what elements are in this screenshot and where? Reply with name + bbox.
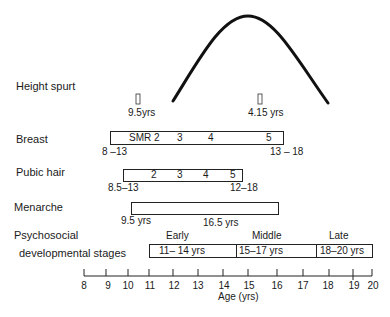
age-axis (84, 269, 372, 280)
tick-label-14: 14 (218, 280, 229, 291)
psychosocial-middle-range: 15–17 yrs (239, 245, 283, 256)
psychosocial-stage-early-name: Early (166, 230, 189, 241)
breast-label: Breast (16, 133, 48, 145)
breast-stage-bar: SMR 2 3 4 5 (110, 131, 284, 145)
tick-label-11: 11 (145, 280, 155, 291)
pubic-hair-end-range: 12–18 (230, 182, 258, 193)
height-spurt-curve (173, 16, 328, 103)
tick-label-15: 15 (243, 280, 254, 291)
menarche-label: Menarche (14, 201, 63, 213)
tick-label-18: 18 (322, 280, 333, 291)
breast-end-range: 13 – 18 (270, 146, 303, 157)
tick-label-10: 10 (122, 280, 133, 291)
menarche-bar (131, 202, 279, 215)
tick-label-19: 19 (348, 280, 359, 291)
pubic-hair-stage-5: 5 (230, 169, 236, 180)
breast-stage-2: SMR 2 (129, 132, 160, 143)
psychosocial-stage-late-name: Late (329, 230, 348, 241)
pubic-hair-stage-bar: 2 3 4 5 (123, 169, 243, 182)
tick-label-17: 17 (297, 280, 308, 291)
pubic-hair-start-range: 8.5–13 (108, 182, 139, 193)
breast-stage-5: 5 (266, 132, 272, 143)
menarche-end-label: 16.5 yrs (203, 217, 239, 228)
psychosocial-label-line2: developmental stages (19, 247, 126, 259)
breast-start-range: 8 –13 (102, 146, 127, 157)
tick-label-16: 16 (271, 280, 282, 291)
tick-label-13: 13 (192, 280, 203, 291)
pubic-hair-label: Pubic hair (16, 166, 65, 178)
height-spurt-start-label: 9.5yrs (128, 107, 155, 118)
tick-label-12: 12 (168, 280, 179, 291)
psychosocial-early-range: 11– 14 yrs (159, 245, 205, 256)
tick-label-8: 8 (81, 280, 87, 291)
pubic-hair-stage-2: 2 (151, 169, 157, 180)
psychosocial-late-box: 18–20 yrs (316, 244, 373, 258)
diagram-graphics (0, 0, 390, 317)
age-axis-title: Age (yrs) (218, 291, 259, 302)
psychosocial-late-range: 18–20 yrs (320, 245, 364, 256)
psychosocial-middle-box: 15–17 yrs (236, 244, 317, 258)
tick-label-9: 9 (105, 280, 111, 291)
height-spurt-peak-marker (258, 94, 262, 104)
psychosocial-label-line1: Psychosocial (14, 229, 78, 241)
breast-stage-3: 3 (177, 132, 183, 143)
height-spurt-start-marker (136, 94, 140, 104)
psychosocial-stage-middle-name: Middle (252, 230, 281, 241)
menarche-start-label: 9.5 yrs (121, 215, 151, 226)
pubic-hair-stage-4: 4 (203, 169, 209, 180)
pubic-hair-stage-3: 3 (177, 169, 183, 180)
tick-label-20: 20 (367, 280, 378, 291)
height-spurt-peak-label: 4.15 yrs (248, 107, 284, 118)
psychosocial-early-box: 11– 14 yrs (149, 244, 237, 258)
height-spurt-label: Height spurt (16, 80, 75, 92)
breast-stage-4: 4 (208, 132, 214, 143)
